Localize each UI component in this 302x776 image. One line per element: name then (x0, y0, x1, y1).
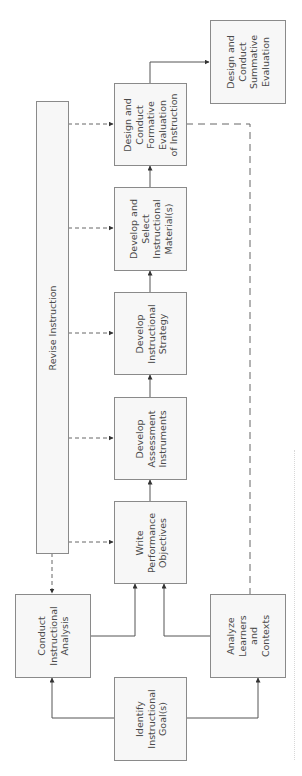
revise-instruction-label: Revise Instruction (47, 285, 59, 370)
performance-objectives-label: Write Performance Objectives (133, 512, 168, 572)
formative-evaluation-label: Design and Conduct Formative Evaluation … (122, 93, 180, 156)
performance-objectives-box: Write Performance Objectives (114, 501, 187, 584)
learners-contexts-box: Analyze Learners and Contexts (210, 594, 286, 678)
instructional-strategy-box: Develop Instructional Strategy (114, 292, 187, 375)
assessment-instruments-label: Develop Assessment Instruments (133, 410, 168, 467)
summative-evaluation-box: Design and Conduct Summative Evaluation (210, 20, 286, 104)
summative-evaluation-label: Design and Conduct Summative Evaluation (225, 35, 271, 89)
instructional-materials-box: Develop and Select Instructional Materia… (114, 187, 187, 271)
instructional-strategy-label: Develop Instructional Strategy (133, 304, 168, 363)
formative-evaluation-box: Design and Conduct Formative Evaluation … (114, 83, 187, 166)
instructional-analysis-box: Conduct Instructional Analysis (15, 594, 91, 678)
instructional-goals-label: Identify Instructional Goal(s) (133, 689, 168, 748)
revise-instruction-box: Revise Instruction (36, 101, 69, 554)
figure-caption-faint (294, 450, 299, 760)
instructional-goals-box: Identify Instructional Goal(s) (114, 677, 187, 761)
learners-contexts-label: Analyze Learners and Contexts (225, 615, 271, 657)
assessment-instruments-box: Develop Assessment Instruments (114, 397, 187, 480)
instructional-materials-label: Develop and Select Instructional Materia… (128, 199, 174, 259)
instructional-analysis-label: Conduct Instructional Analysis (36, 606, 71, 665)
instructional-design-diagram: Revise Instruction Design and Conduct Su… (0, 0, 302, 776)
